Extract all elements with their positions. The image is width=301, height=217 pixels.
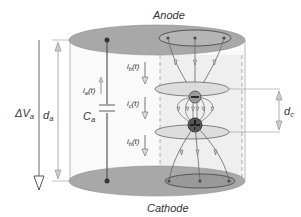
ca-label: Ca [83, 111, 95, 124]
dc-dimension [276, 91, 282, 130]
da-dimension [52, 40, 70, 181]
ib-lower-label: ib(t) [127, 138, 139, 148]
discharge-channel [160, 55, 242, 181]
ib-upper-label: ib(t) [127, 63, 139, 73]
da-label: da [43, 110, 53, 123]
ic-label: ic(t) [127, 100, 139, 110]
cathode-label: Cathode [147, 203, 189, 214]
delta-v-label: ΔVa [15, 108, 34, 121]
anode-label: Anode [153, 10, 185, 21]
dc-label: dc [284, 106, 294, 119]
ia-label: ia(t) [83, 87, 95, 97]
negative-charge [189, 91, 201, 103]
